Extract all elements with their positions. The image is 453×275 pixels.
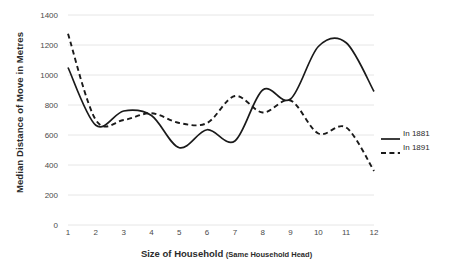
series-line-1 bbox=[68, 34, 374, 171]
x-tick-label: 8 bbox=[260, 228, 264, 237]
legend-label: In 1881 bbox=[403, 129, 430, 138]
x-tick-label: 2 bbox=[94, 228, 98, 237]
x-axis-tick-labels: 123456789101112 bbox=[68, 228, 374, 242]
x-axis-title: Size of Household (Same Household Head) bbox=[0, 248, 453, 259]
series-lines bbox=[68, 15, 374, 225]
x-axis-title-main: Size of Household bbox=[141, 248, 223, 259]
series-line-0 bbox=[68, 38, 374, 148]
y-tick-label: 0 bbox=[24, 221, 58, 230]
x-tick-label: 9 bbox=[288, 228, 292, 237]
y-tick-label: 400 bbox=[24, 161, 58, 170]
x-tick-label: 12 bbox=[370, 228, 379, 237]
legend: In 1881In 1891 bbox=[381, 126, 451, 154]
x-tick-label: 1 bbox=[66, 228, 70, 237]
legend-line-icon bbox=[381, 129, 400, 137]
x-tick-label: 6 bbox=[205, 228, 209, 237]
y-tick-label: 800 bbox=[24, 101, 58, 110]
legend-item[interactable]: In 1891 bbox=[381, 140, 451, 154]
x-tick-label: 10 bbox=[314, 228, 323, 237]
x-tick-label: 5 bbox=[177, 228, 181, 237]
y-tick-label: 1400 bbox=[24, 11, 58, 20]
y-tick-label: 600 bbox=[24, 131, 58, 140]
x-tick-label: 7 bbox=[233, 228, 237, 237]
x-axis-title-sub: (Same Household Head) bbox=[226, 250, 312, 259]
y-tick-label: 1000 bbox=[24, 71, 58, 80]
legend-line-icon bbox=[381, 143, 400, 151]
y-tick-label: 1200 bbox=[24, 41, 58, 50]
legend-label: In 1891 bbox=[403, 143, 430, 152]
y-tick-label: 200 bbox=[24, 191, 58, 200]
y-axis-tick-labels: 0200400600800100012001400 bbox=[24, 0, 58, 275]
x-tick-label: 4 bbox=[149, 228, 153, 237]
plot-area bbox=[68, 15, 374, 225]
line-chart: Median Distance of Move in Metres 020040… bbox=[0, 0, 453, 275]
x-tick-label: 3 bbox=[121, 228, 125, 237]
x-tick-label: 11 bbox=[342, 228, 350, 237]
legend-item[interactable]: In 1881 bbox=[381, 126, 451, 140]
y-axis-title: Median Distance of Move in Metres bbox=[14, 13, 25, 213]
